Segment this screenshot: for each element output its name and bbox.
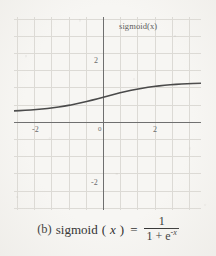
tick-label-origin: 0 [98,126,102,133]
fraction-denominator: 1 + e-x [144,230,178,242]
denominator-prefix: 1 + e [146,229,170,243]
fraction-numerator: 1 [156,215,168,227]
caption-variable: x [110,222,116,238]
sigmoid-curve [14,17,201,210]
caption-index: (b) [37,222,52,237]
caption-fraction: 1 1 + e-x [144,215,178,242]
caption-equals: = [130,222,137,238]
tick-label-x-2: 2 [153,126,157,134]
y-axis-label: sigmoid(x) [119,21,157,31]
tick-label-y-2: 2 [94,57,98,65]
figure-caption: (b) sigmoid(x) = 1 1 + e-x [0,216,216,243]
tick-label-x-neg2: -2 [32,126,39,134]
caption-paren-close: ) [120,222,124,238]
plot-area: 2 -2 -2 2 0 [14,17,201,210]
tick-label-y-neg2: -2 [91,179,98,187]
denominator-exponent: -x [171,228,177,237]
caption-paren-open: ( [102,222,106,238]
y-axis-label-text: sigmoid(x) [119,21,157,31]
caption-function-name: sigmoid [56,222,98,238]
figure-sigmoid: 2 -2 -2 2 0 sigmoid(x) (b) sigmoid(x) = … [0,0,216,256]
